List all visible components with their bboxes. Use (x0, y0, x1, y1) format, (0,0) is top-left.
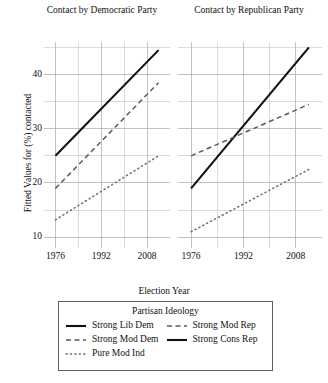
series-line (55, 50, 158, 156)
legend-swatch-dotted (65, 350, 87, 358)
legend-label: Strong Lib Dem (92, 321, 154, 331)
panel-title-democratic: Contact by Democratic Party (32, 5, 172, 15)
x-tick-label: 2008 (138, 252, 157, 262)
x-tick-label: 1976 (46, 252, 65, 262)
chart-figure: Contact by Democratic Party Contact by R… (0, 0, 328, 383)
x-axis-tick-labels-democratic: 197619922008 (44, 252, 170, 266)
legend-swatch-solid (65, 322, 87, 330)
legend-entries: Strong Lib DemStrong Mod RepStrong Mod D… (59, 319, 272, 361)
x-axis-tick-labels-republican: 197619922008 (178, 252, 322, 266)
legend-title: Partisan Ideology (59, 306, 272, 316)
legend-row: Pure Mod Ind (65, 347, 266, 361)
legend-label: Strong Mod Rep (193, 321, 256, 331)
panel-title-republican: Contact by Republican Party (176, 5, 322, 15)
y-tick-label: 30 (20, 124, 42, 134)
series-line (191, 169, 309, 231)
plot-svg-democratic (44, 42, 170, 248)
x-tick-label: 1992 (92, 252, 111, 262)
x-tick-label: 1976 (182, 252, 201, 262)
series-line (55, 83, 158, 189)
plot-panel-democratic (44, 42, 170, 248)
series-line (191, 104, 309, 156)
legend-item: Strong Mod Dem (65, 335, 166, 345)
legend-item: Strong Lib Dem (65, 321, 166, 331)
legend-swatch-solid (166, 336, 188, 344)
legend-label: Strong Cons Rep (193, 335, 258, 345)
legend-row: Strong Lib DemStrong Mod Rep (65, 319, 266, 333)
plot-svg-republican (178, 42, 322, 248)
x-tick-label: 1992 (234, 252, 253, 262)
legend-item: Pure Mod Ind (65, 349, 166, 359)
legend-label: Strong Mod Dem (92, 335, 159, 345)
y-tick-label: 10 (20, 232, 42, 242)
legend-item: Strong Mod Rep (166, 321, 267, 331)
y-tick-label: 40 (20, 70, 42, 80)
legend-item: Strong Cons Rep (166, 335, 267, 345)
legend-swatch-dashed (166, 322, 188, 330)
plot-area-democratic (44, 42, 170, 248)
x-tick-label: 2008 (286, 252, 305, 262)
plot-panel-republican (178, 42, 322, 248)
series-line (191, 47, 309, 188)
plot-area-republican (178, 42, 322, 248)
y-tick-label: 20 (20, 178, 42, 188)
legend-swatch-dashed (65, 336, 87, 344)
legend: Partisan Ideology Strong Lib DemStrong M… (58, 301, 273, 371)
legend-row: Strong Mod DemStrong Cons Rep (65, 333, 266, 347)
legend-label: Pure Mod Ind (92, 349, 145, 359)
x-axis-label: Election Year (0, 286, 328, 296)
y-axis-tick-labels: 10203040 (16, 42, 42, 248)
